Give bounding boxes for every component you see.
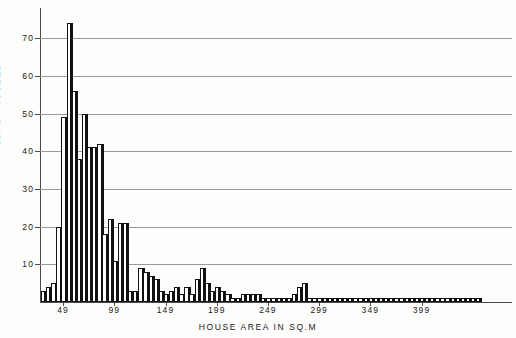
bar bbox=[271, 298, 274, 302]
bar bbox=[102, 234, 105, 302]
bar bbox=[67, 23, 70, 302]
bar bbox=[394, 298, 397, 302]
bar bbox=[179, 294, 182, 302]
bar bbox=[282, 298, 285, 302]
bar bbox=[425, 298, 428, 302]
bar bbox=[169, 291, 172, 302]
bar bbox=[348, 298, 351, 302]
bar bbox=[92, 147, 95, 302]
bar bbox=[87, 147, 90, 302]
plot-area bbox=[40, 8, 512, 302]
bar bbox=[384, 298, 387, 302]
bar bbox=[292, 294, 295, 302]
bar bbox=[374, 298, 377, 302]
bar bbox=[358, 298, 361, 302]
bar bbox=[113, 261, 116, 302]
bar-shadow-cap bbox=[203, 268, 206, 272]
bar bbox=[210, 291, 213, 302]
bar bbox=[333, 298, 336, 302]
y-tick-label-30: 30 bbox=[8, 184, 34, 194]
bar bbox=[220, 291, 223, 302]
bar-shadow-cap bbox=[70, 23, 73, 27]
bar bbox=[476, 298, 479, 302]
bar bbox=[461, 298, 464, 302]
bar bbox=[230, 298, 233, 302]
y-tick-label-70: 70 bbox=[8, 33, 34, 43]
x-tick-mark-299 bbox=[319, 302, 320, 306]
bar bbox=[456, 298, 459, 302]
bar-shadow-cap bbox=[126, 223, 129, 227]
bar bbox=[41, 291, 44, 302]
bar bbox=[108, 219, 111, 302]
bar bbox=[451, 298, 454, 302]
bar bbox=[51, 283, 54, 302]
x-tick-mark-199 bbox=[217, 302, 218, 306]
bar-shadow-cap bbox=[101, 144, 104, 148]
bar bbox=[440, 298, 443, 302]
bar-shadow-cap bbox=[111, 219, 114, 223]
bar bbox=[215, 287, 218, 302]
y-tick-mark-20 bbox=[35, 227, 40, 228]
bar bbox=[353, 298, 356, 302]
bar bbox=[302, 283, 305, 302]
histogram-figure: NO. OF HOUSES 10203040506070 49991491992… bbox=[0, 0, 516, 338]
x-tick-mark-399 bbox=[422, 302, 423, 306]
x-tick-label-149: 149 bbox=[157, 305, 174, 315]
bar bbox=[118, 223, 121, 302]
bar bbox=[97, 144, 100, 302]
x-tick-label-99: 99 bbox=[109, 305, 121, 315]
bar bbox=[82, 114, 85, 302]
bar-shadow-cap bbox=[177, 287, 180, 291]
bar bbox=[338, 298, 341, 302]
x-tick-mark-149 bbox=[166, 302, 167, 306]
bar bbox=[379, 298, 382, 302]
bar bbox=[261, 298, 264, 302]
x-tick-label-399: 399 bbox=[413, 305, 430, 315]
y-tick-label-20: 20 bbox=[8, 222, 34, 232]
bar bbox=[149, 276, 152, 302]
bar bbox=[200, 268, 203, 302]
y-tick-mark-70 bbox=[35, 38, 40, 39]
bar bbox=[56, 227, 59, 302]
bar bbox=[251, 294, 254, 302]
bar bbox=[312, 298, 315, 302]
bar bbox=[445, 298, 448, 302]
bar bbox=[399, 298, 402, 302]
y-tick-label-10: 10 bbox=[8, 259, 34, 269]
y-tick-mark-30 bbox=[35, 189, 40, 190]
y-tick-label-40: 40 bbox=[8, 146, 34, 156]
bar bbox=[174, 287, 177, 302]
x-axis-title: HOUSE AREA IN SQ.M bbox=[0, 322, 516, 332]
bar bbox=[241, 294, 244, 302]
x-tick-mark-349 bbox=[370, 302, 371, 306]
bar bbox=[236, 298, 239, 302]
bar bbox=[189, 294, 192, 302]
bar bbox=[133, 291, 136, 302]
bar-shadow-cap bbox=[75, 91, 78, 95]
bar bbox=[46, 287, 49, 302]
bar bbox=[323, 298, 326, 302]
bar bbox=[405, 298, 408, 302]
bar bbox=[415, 298, 418, 302]
bar bbox=[435, 298, 438, 302]
bar-shadow-cap bbox=[208, 283, 211, 287]
x-tick-mark-99 bbox=[114, 302, 115, 306]
bar bbox=[297, 287, 300, 302]
y-tick-mark-40 bbox=[35, 151, 40, 152]
bar-shadow-cap bbox=[305, 283, 308, 287]
bar bbox=[430, 298, 433, 302]
bar bbox=[410, 298, 413, 302]
bar bbox=[72, 91, 75, 302]
bar bbox=[77, 159, 80, 302]
bar bbox=[328, 298, 331, 302]
bar bbox=[225, 294, 228, 302]
x-tick-label-199: 199 bbox=[208, 305, 225, 315]
y-tick-label-50: 50 bbox=[8, 109, 34, 119]
bar bbox=[307, 298, 310, 302]
bar bbox=[364, 298, 367, 302]
x-tick-label-299: 299 bbox=[310, 305, 327, 315]
bar bbox=[256, 294, 259, 302]
y-tick-mark-60 bbox=[35, 76, 40, 77]
bar bbox=[154, 279, 157, 302]
bars-layer bbox=[40, 8, 512, 302]
